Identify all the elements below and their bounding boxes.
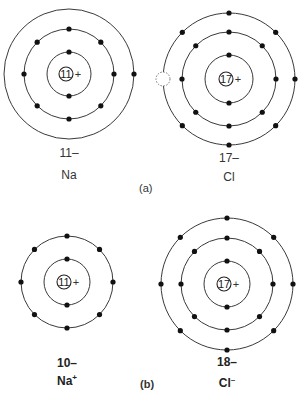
electron bbox=[18, 279, 23, 284]
na-ion-symbol: Na+ bbox=[37, 371, 97, 388]
electron bbox=[224, 347, 229, 352]
na-ion-electron-count: 10– bbox=[37, 356, 97, 370]
electron bbox=[178, 235, 183, 240]
electron bbox=[224, 304, 229, 309]
electron bbox=[158, 281, 163, 286]
part-b-label: (b) bbox=[140, 378, 154, 390]
electron bbox=[292, 76, 297, 81]
electron bbox=[260, 43, 265, 48]
electron bbox=[64, 325, 69, 330]
nucleus-charge: 11 bbox=[60, 68, 71, 80]
electron bbox=[226, 142, 231, 147]
na-atom: 11+ bbox=[4, 9, 137, 139]
electron bbox=[32, 247, 37, 252]
electron bbox=[97, 247, 102, 252]
electron bbox=[32, 312, 37, 317]
electron bbox=[192, 314, 197, 319]
electron bbox=[193, 110, 198, 115]
na-ion-charge: + bbox=[72, 373, 77, 382]
electron bbox=[226, 10, 231, 15]
electron bbox=[64, 256, 69, 261]
cl-ion-charge: – bbox=[231, 375, 235, 384]
electron bbox=[66, 49, 71, 54]
electron bbox=[98, 40, 103, 45]
electron bbox=[97, 312, 102, 317]
electron bbox=[64, 302, 69, 307]
electron bbox=[273, 123, 278, 128]
ionic-bond-diagram: 11+17+11+17+ bbox=[0, 0, 302, 398]
nucleus-charge: 17 bbox=[220, 73, 232, 85]
cl-symbol: Cl bbox=[199, 170, 259, 184]
electron bbox=[224, 235, 229, 240]
na-ion-symbol-text: Na bbox=[57, 374, 72, 388]
na-symbol: Na bbox=[39, 168, 99, 182]
cl-ion-symbol: Cl– bbox=[197, 373, 257, 390]
electron bbox=[273, 76, 278, 81]
electron bbox=[110, 279, 115, 284]
nucleus-sign: + bbox=[75, 68, 81, 80]
electron bbox=[257, 249, 262, 254]
electron bbox=[98, 103, 103, 108]
electron bbox=[224, 327, 229, 332]
na-electron-count: 11– bbox=[39, 146, 99, 160]
electron bbox=[178, 281, 183, 286]
electron-vacancy bbox=[156, 72, 170, 86]
cl-ion: 17+ bbox=[158, 215, 295, 352]
electron bbox=[21, 71, 26, 76]
electron bbox=[290, 281, 295, 286]
electron bbox=[131, 71, 136, 76]
electron bbox=[179, 76, 184, 81]
electron bbox=[226, 52, 231, 57]
electron bbox=[224, 258, 229, 263]
electron bbox=[66, 26, 71, 31]
part-a-label: (a) bbox=[139, 182, 152, 194]
electron bbox=[257, 314, 262, 319]
electron bbox=[66, 116, 71, 121]
electron bbox=[271, 328, 276, 333]
nucleus-sign: + bbox=[235, 73, 241, 85]
electron bbox=[111, 71, 116, 76]
electron bbox=[64, 233, 69, 238]
electron bbox=[226, 123, 231, 128]
electron bbox=[226, 29, 231, 34]
cl-ion-symbol-text: Cl bbox=[219, 376, 231, 390]
electron bbox=[260, 110, 265, 115]
electron bbox=[180, 30, 185, 35]
electron bbox=[270, 281, 275, 286]
electron bbox=[192, 249, 197, 254]
electron bbox=[180, 123, 185, 128]
nucleus-charge: 17 bbox=[218, 278, 230, 290]
cl-atom: 17+ bbox=[156, 10, 298, 147]
cl-ion-electron-count: 18– bbox=[197, 355, 257, 369]
electron bbox=[178, 328, 183, 333]
electron bbox=[224, 215, 229, 220]
nucleus-charge: 11 bbox=[58, 276, 69, 288]
nucleus-sign: + bbox=[233, 278, 239, 290]
electron bbox=[271, 235, 276, 240]
electron bbox=[193, 43, 198, 48]
electron bbox=[35, 40, 40, 45]
electron bbox=[35, 103, 40, 108]
electron bbox=[273, 30, 278, 35]
electron bbox=[66, 93, 71, 98]
nucleus-sign: + bbox=[73, 276, 79, 288]
cl-electron-count: 17– bbox=[199, 151, 259, 165]
na-ion: 11+ bbox=[18, 233, 115, 330]
electron bbox=[226, 100, 231, 105]
